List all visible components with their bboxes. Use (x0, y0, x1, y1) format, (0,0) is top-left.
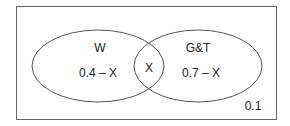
set-gt-label: G&T (186, 41, 211, 55)
set-gt-only-value: 0.7 – X (182, 66, 220, 80)
venn-diagram: W 0.4 – X G&T 0.7 – X X 0.1 (0, 0, 290, 126)
outside-value: 0.1 (245, 99, 262, 113)
intersection-value: X (145, 61, 153, 75)
set-w-only-value: 0.4 – X (79, 66, 117, 80)
set-w-label: W (94, 41, 106, 55)
